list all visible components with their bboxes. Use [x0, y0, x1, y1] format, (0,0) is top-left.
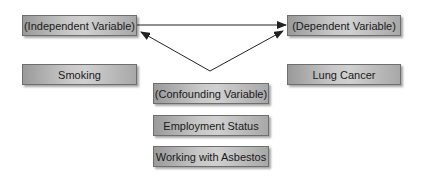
- working-with-asbestos-label: Working with Asbestos: [156, 151, 266, 163]
- smoking-box: Smoking: [22, 64, 137, 85]
- dependent-variable-label: (Dependent Variable): [292, 20, 396, 32]
- arrow-confounding-to-independent: [141, 32, 210, 71]
- independent-variable-label: (Independent Variable): [24, 20, 135, 32]
- independent-variable-box: (Independent Variable): [22, 15, 137, 36]
- arrow-confounding-to-dependent: [210, 31, 283, 71]
- lung-cancer-label: Lung Cancer: [313, 69, 376, 81]
- dependent-variable-box: (Dependent Variable): [287, 15, 401, 36]
- employment-status-label: Employment Status: [163, 120, 258, 132]
- confounding-variable-box: (Confounding Variable): [153, 83, 269, 104]
- smoking-label: Smoking: [58, 69, 101, 81]
- lung-cancer-box: Lung Cancer: [287, 64, 401, 85]
- confounding-variable-label: (Confounding Variable): [155, 88, 267, 100]
- working-with-asbestos-box: Working with Asbestos: [153, 146, 269, 167]
- employment-status-box: Employment Status: [153, 115, 269, 136]
